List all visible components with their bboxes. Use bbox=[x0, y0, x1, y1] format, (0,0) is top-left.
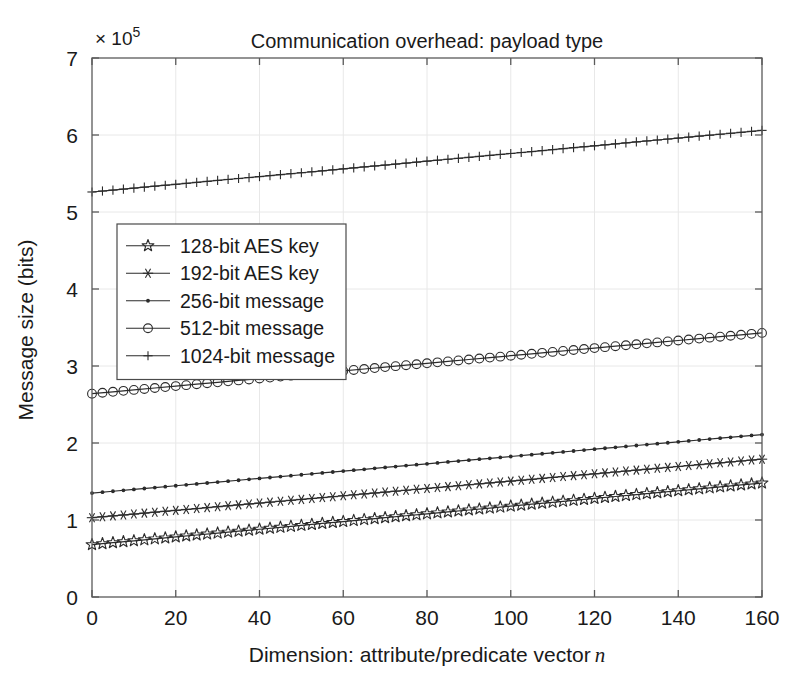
data-marker-dot bbox=[226, 479, 230, 483]
chart-legend[interactable]: 128-bit AES key192-bit AES key256-bit me… bbox=[117, 224, 346, 380]
data-marker-dot bbox=[666, 441, 670, 445]
data-marker-dot bbox=[341, 469, 345, 473]
data-marker-dot bbox=[247, 477, 251, 481]
data-marker-dot bbox=[101, 490, 105, 494]
legend-label: 1024-bit message bbox=[180, 345, 335, 367]
x-tick-label: 140 bbox=[661, 606, 696, 629]
x-axis-label: Dimension: attribute/predicate vectorn bbox=[249, 643, 606, 667]
data-marker-dot bbox=[457, 459, 461, 463]
data-marker-dot bbox=[729, 435, 733, 439]
data-marker-dot bbox=[498, 455, 502, 459]
data-marker-dot bbox=[132, 487, 136, 491]
data-marker-dot bbox=[362, 467, 366, 471]
x-tick-label: 20 bbox=[164, 606, 187, 629]
x-tick-label: 60 bbox=[332, 606, 355, 629]
data-marker-dot bbox=[676, 440, 680, 444]
data-marker-dot bbox=[488, 456, 492, 460]
legend-label: 192-bit AES key bbox=[180, 262, 319, 284]
data-marker-dot bbox=[540, 452, 544, 456]
communication-overhead-chart: 02040608010012014016001234567 Communicat… bbox=[0, 0, 807, 690]
data-marker-dot bbox=[645, 443, 649, 447]
data-marker-dot bbox=[111, 489, 115, 493]
data-marker-dot bbox=[530, 453, 534, 457]
y-tick-label: 6 bbox=[66, 124, 78, 147]
legend-label: 128-bit AES key bbox=[180, 235, 319, 257]
x-tick-label: 40 bbox=[248, 606, 271, 629]
y-tick-label: 1 bbox=[66, 509, 78, 532]
y-tick-label: 3 bbox=[66, 355, 78, 378]
data-marker-dot bbox=[352, 468, 356, 472]
data-marker-dot bbox=[718, 436, 722, 440]
data-marker-dot bbox=[551, 451, 555, 455]
data-marker-dot bbox=[446, 460, 450, 464]
data-marker-dot bbox=[195, 482, 199, 486]
x-tick-label: 0 bbox=[86, 606, 98, 629]
chart-title: Communication overhead: payload type bbox=[251, 30, 603, 52]
data-marker-dot bbox=[436, 461, 440, 465]
figure-container: 02040608010012014016001234567 Communicat… bbox=[0, 0, 807, 690]
data-marker-dot bbox=[174, 484, 178, 488]
data-marker-dot bbox=[593, 447, 597, 451]
y-tick-label: 2 bbox=[66, 432, 78, 455]
data-marker-dot bbox=[163, 485, 167, 489]
data-marker-dot bbox=[509, 455, 513, 459]
data-marker-dot bbox=[415, 463, 419, 467]
data-marker-dot bbox=[425, 462, 429, 466]
x-tick-label: 80 bbox=[415, 606, 438, 629]
data-marker-dot bbox=[216, 480, 220, 484]
data-marker-dot bbox=[477, 457, 481, 461]
data-marker-dot bbox=[146, 299, 150, 303]
data-marker-dot bbox=[404, 464, 408, 468]
data-marker-dot bbox=[205, 481, 209, 485]
data-marker-dot bbox=[373, 466, 377, 470]
legend-label: 512-bit message bbox=[180, 317, 324, 339]
data-marker-dot bbox=[697, 438, 701, 442]
x-tick-label: 100 bbox=[493, 606, 528, 629]
data-marker-dot bbox=[153, 486, 157, 490]
data-marker-dot bbox=[142, 487, 146, 491]
data-marker-dot bbox=[331, 470, 335, 474]
data-marker-dot bbox=[258, 477, 262, 481]
y-axis-label: Message size (bits) bbox=[14, 240, 37, 421]
data-marker-dot bbox=[739, 434, 743, 438]
data-marker-dot bbox=[603, 446, 607, 450]
y-tick-label: 7 bbox=[66, 47, 78, 70]
data-marker-dot bbox=[383, 466, 387, 470]
y-tick-label: 5 bbox=[66, 201, 78, 224]
data-marker-dot bbox=[467, 458, 471, 462]
data-marker-dot bbox=[299, 473, 303, 477]
data-marker-dot bbox=[582, 448, 586, 452]
data-marker-dot bbox=[268, 476, 272, 480]
data-marker-dot bbox=[750, 434, 754, 438]
data-marker-dot bbox=[634, 444, 638, 448]
y-tick-label: 4 bbox=[66, 278, 78, 301]
data-marker-dot bbox=[572, 449, 576, 453]
data-marker-dot bbox=[687, 439, 691, 443]
data-marker-dot bbox=[122, 488, 126, 492]
data-marker-dot bbox=[614, 445, 618, 449]
x-tick-label: 160 bbox=[744, 606, 779, 629]
data-marker-dot bbox=[320, 471, 324, 475]
data-marker-dot bbox=[655, 442, 659, 446]
data-marker-dot bbox=[289, 474, 293, 478]
x-tick-label: 120 bbox=[577, 606, 612, 629]
legend-label: 256-bit message bbox=[180, 290, 324, 312]
data-marker-dot bbox=[624, 445, 628, 449]
data-marker-dot bbox=[237, 478, 241, 482]
data-marker-dot bbox=[310, 472, 314, 476]
y-tick-label: 0 bbox=[66, 586, 78, 609]
data-marker-dot bbox=[184, 483, 188, 487]
data-marker-dot bbox=[279, 475, 283, 479]
data-marker-dot bbox=[561, 450, 565, 454]
data-marker-dot bbox=[394, 465, 398, 469]
data-marker-dot bbox=[519, 454, 523, 458]
data-marker-dot bbox=[708, 437, 712, 441]
